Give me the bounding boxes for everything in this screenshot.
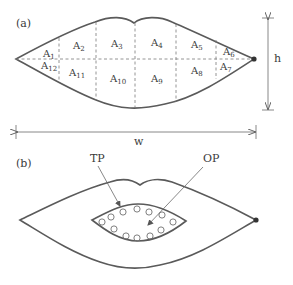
region-a12: A12 [40,60,57,73]
panel-b: (b) TP OP [16,152,259,268]
region-a8: A8 [190,65,203,78]
pin [99,219,105,225]
region-a10: A10 [109,73,126,86]
pin [111,226,117,232]
lip-outline-b [20,180,256,269]
lip-diagram: (a) A1 A2 A3 A4 A5 A6 A7 A8 A9 A10 A11 A… [0,0,293,285]
height-dimension: h [262,18,281,110]
pin [134,206,140,212]
tp-label: TP [90,152,105,165]
panel-b-label: (b) [16,157,32,170]
region-a2: A2 [72,40,85,53]
panel-a: (a) A1 A2 A3 A4 A5 A6 A7 A8 A9 A10 A11 A… [16,17,281,148]
corner-dot-a [251,56,256,61]
pin [147,233,153,239]
width-label: w [134,135,144,148]
region-a6: A6 [222,46,235,59]
op-label: OP [203,152,220,165]
region-a3: A3 [110,38,123,51]
pin [146,209,152,215]
region-a11: A11 [68,67,85,80]
region-a4: A4 [150,37,163,50]
pin [123,233,129,239]
pin [134,235,140,241]
region-labels: A1 A2 A3 A4 A5 A6 A7 A8 A9 A10 A11 A12 [40,37,235,86]
region-a7: A7 [219,61,232,74]
region-a5: A5 [190,39,203,52]
corner-dot-b [253,217,258,222]
pin [170,219,176,225]
pin [120,209,126,215]
pin [108,214,114,220]
op-arrow [148,167,203,225]
width-dimension: w [16,125,256,148]
tp-arrow [98,166,120,206]
panel-a-label: (a) [16,17,31,30]
height-label: h [274,52,281,65]
region-a9: A9 [150,73,163,86]
pin [158,227,164,233]
